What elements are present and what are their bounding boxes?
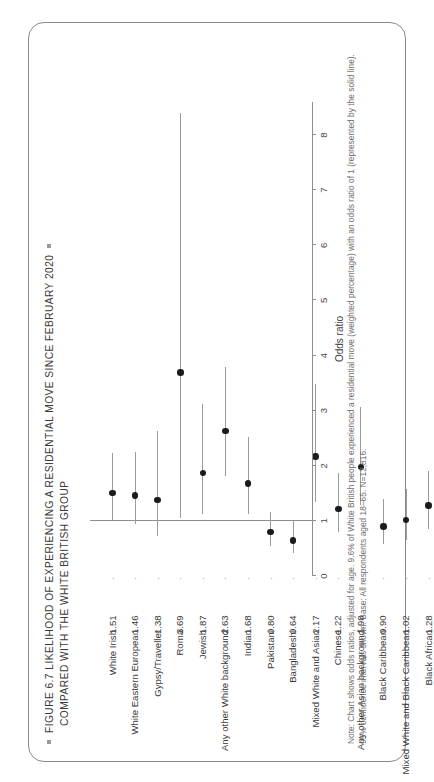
data-point bbox=[222, 428, 229, 435]
category-label: Any other White background bbox=[219, 630, 231, 751]
category-label: Pakistani bbox=[265, 630, 277, 669]
category-value-label: 1.22 bbox=[332, 590, 344, 634]
category-value-label: 0.64 bbox=[287, 590, 299, 634]
category-tick-dot: · bbox=[197, 577, 209, 580]
category-label: Black Caribbean bbox=[377, 630, 389, 700]
confidence-interval bbox=[225, 367, 226, 476]
figure-page: FIGURE 6.7 LIKELIHOOD OF EXPERIENCING A … bbox=[0, 0, 434, 782]
category-tick-dot: · bbox=[219, 577, 231, 580]
x-axis-tick-label: 3 bbox=[318, 408, 329, 413]
data-point bbox=[403, 517, 410, 524]
category-tick-dot: · bbox=[423, 577, 434, 580]
x-axis-tick-label: 7 bbox=[318, 188, 329, 193]
data-point bbox=[267, 529, 274, 536]
reference-line bbox=[90, 520, 312, 521]
category-value-label: 0.90 bbox=[377, 590, 389, 634]
category-tick-dot: · bbox=[265, 577, 277, 580]
confidence-interval bbox=[157, 431, 158, 537]
confidence-interval bbox=[248, 437, 249, 514]
category-label: Jewish bbox=[197, 630, 209, 659]
data-point bbox=[312, 453, 319, 460]
data-point bbox=[425, 502, 432, 509]
data-point bbox=[380, 523, 387, 530]
category-tick-dot: · bbox=[242, 577, 254, 580]
category-row: Gypsy/Traveller1.38· bbox=[152, 576, 164, 762]
category-row: White Eastern European1.46· bbox=[129, 576, 141, 762]
category-tick-dot: · bbox=[287, 577, 299, 580]
figure-title: FIGURE 6.7 LIKELIHOOD OF EXPERIENCING A … bbox=[42, 44, 72, 744]
category-row: Mixed White and Black Caribbean1.02· bbox=[400, 576, 412, 762]
category-row: Indian1.68· bbox=[242, 576, 254, 762]
category-label: White Eastern European bbox=[129, 630, 141, 735]
x-axis-tick bbox=[312, 465, 316, 466]
x-axis-tick bbox=[312, 134, 316, 135]
data-point bbox=[200, 470, 207, 477]
category-label: Black African bbox=[423, 630, 434, 685]
category-label: Gypsy/Traveller bbox=[152, 630, 164, 697]
category-tick-dot: · bbox=[152, 577, 164, 580]
figure-card: FIGURE 6.7 LIKELIHOOD OF EXPERIENCING A … bbox=[28, 22, 406, 762]
data-point bbox=[290, 537, 297, 544]
category-tick-dot: · bbox=[377, 577, 389, 580]
category-row: Bangladeshi0.64· bbox=[287, 576, 299, 762]
category-row: Black Caribbean0.90· bbox=[377, 576, 389, 762]
category-value-label: 2.17 bbox=[310, 590, 322, 634]
confidence-interval bbox=[428, 471, 429, 528]
data-point bbox=[335, 506, 342, 513]
x-axis-tick bbox=[312, 410, 316, 411]
rotated-figure-stage: FIGURE 6.7 LIKELIHOOD OF EXPERIENCING A … bbox=[28, 22, 406, 762]
confidence-interval bbox=[338, 474, 339, 532]
x-axis-tick-label: 4 bbox=[318, 353, 329, 358]
figure-title-line-1: FIGURE 6.7 LIKELIHOOD OF EXPERIENCING A … bbox=[42, 44, 57, 744]
category-row: Black African1.28· bbox=[423, 576, 434, 762]
category-row: Roma3.69· bbox=[174, 576, 186, 762]
category-label: Mixed White and Asian bbox=[310, 630, 322, 728]
category-value-label: 0.80 bbox=[265, 590, 277, 634]
category-row: Mixed White and Asian2.17· bbox=[310, 576, 322, 762]
category-value-label: 1.68 bbox=[242, 590, 254, 634]
figure-title-text-1: FIGURE 6.7 LIKELIHOOD OF EXPERIENCING A … bbox=[44, 255, 55, 733]
x-axis-tick bbox=[312, 355, 316, 356]
category-label: Chinese bbox=[332, 630, 344, 665]
category-tick-dot: · bbox=[107, 577, 119, 580]
confidence-interval bbox=[180, 113, 181, 518]
category-tick-dot: · bbox=[129, 577, 141, 580]
x-axis-tick bbox=[312, 299, 316, 300]
category-value-label: 1.02 bbox=[400, 590, 412, 634]
x-axis-tick bbox=[312, 189, 316, 190]
category-row: Chinese1.22· bbox=[332, 576, 344, 762]
category-value-label: 1.51 bbox=[107, 590, 119, 634]
category-value-label: 1.46 bbox=[129, 590, 141, 634]
square-bullet-icon bbox=[47, 740, 51, 744]
x-axis-tick bbox=[312, 244, 316, 245]
x-axis-tick-label: 8 bbox=[318, 132, 329, 137]
plot-area bbox=[90, 102, 312, 576]
data-point bbox=[132, 492, 139, 499]
forest-plot-figure: FIGURE 6.7 LIKELIHOOD OF EXPERIENCING A … bbox=[28, 22, 406, 762]
confidence-interval bbox=[112, 453, 113, 520]
confidence-interval bbox=[406, 489, 407, 540]
category-label: White Irish bbox=[107, 630, 119, 675]
category-value-label: 1.28 bbox=[423, 590, 434, 634]
category-label: Mixed White and Black Caribbean bbox=[400, 630, 412, 775]
figure-title-line-2: COMPARED WITH THE WHITE BRITISH GROUP bbox=[57, 44, 72, 744]
confidence-interval bbox=[135, 452, 136, 524]
x-axis-tick bbox=[312, 520, 316, 521]
x-axis-tick-label: 2 bbox=[318, 463, 329, 468]
x-axis-tick-label: 1 bbox=[318, 518, 329, 523]
x-axis-title: Odds ratio bbox=[334, 316, 345, 362]
confidence-interval bbox=[202, 404, 203, 514]
category-tick-dot: · bbox=[332, 577, 344, 580]
data-point bbox=[109, 490, 116, 497]
category-value-label: 1.38 bbox=[152, 590, 164, 634]
data-point bbox=[177, 369, 184, 376]
category-row: Any other White background2.63· bbox=[219, 576, 231, 762]
category-tick-dot: · bbox=[174, 577, 186, 580]
x-axis bbox=[312, 102, 313, 576]
confidence-interval bbox=[383, 499, 384, 544]
category-row: White Irish1.51· bbox=[107, 576, 119, 762]
category-tick-dot: · bbox=[310, 577, 322, 580]
category-label: Bangladeshi bbox=[287, 630, 299, 683]
square-bullet-icon-end bbox=[47, 244, 51, 248]
category-value-label: 1.87 bbox=[197, 590, 209, 634]
